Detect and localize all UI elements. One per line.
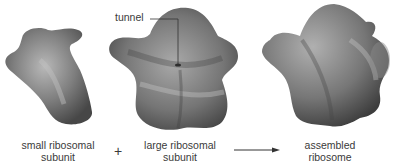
assembled-ribosome-shape [262, 4, 390, 127]
arrow-icon [234, 148, 280, 153]
small-subunit-label: small ribosomal subunit [18, 139, 98, 163]
assembled-ribosome-label-line1: assembled [295, 139, 365, 151]
large-subunit-label: large ribosomal subunit [138, 139, 222, 163]
tunnel-label: tunnel [115, 11, 144, 23]
small-subunit-label-line1: small ribosomal [18, 139, 98, 151]
tunnel-marker [175, 63, 181, 66]
assembled-ribosome-label-line2: ribosome [295, 151, 365, 163]
large-subunit-label-line1: large ribosomal [138, 139, 222, 151]
small-subunit-shape [5, 28, 92, 124]
large-subunit-shape [109, 8, 238, 130]
assembled-ribosome-label: assembled ribosome [295, 139, 365, 163]
large-subunit-label-line2: subunit [138, 151, 222, 163]
plus-sign: + [114, 143, 122, 159]
small-subunit-label-line2: subunit [18, 151, 98, 163]
